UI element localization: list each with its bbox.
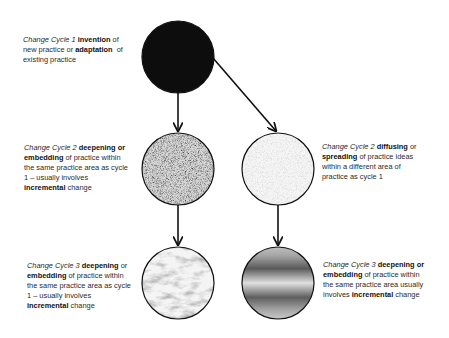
node-cycle1-circle bbox=[142, 21, 214, 93]
label-line: existing practice bbox=[23, 55, 138, 65]
label-line: incremental change bbox=[24, 183, 144, 193]
label-line: 1 – usually involves bbox=[24, 173, 144, 183]
label-line: embedding of practice within bbox=[27, 271, 147, 281]
label-line: involves incremental change bbox=[323, 290, 448, 300]
label-line: spreading of practice ideas bbox=[322, 152, 447, 162]
label-line: Change Cycle 2 deepening or bbox=[24, 143, 144, 153]
label-cycle3-left: Change Cycle 3 deepening orembedding of … bbox=[27, 261, 147, 311]
label-line: embedding of practice within bbox=[24, 153, 144, 163]
label-line: incremental change bbox=[27, 301, 147, 311]
label-line: Change Cycle 2 diffusing or bbox=[322, 142, 447, 152]
label-line: embedding of practice within bbox=[323, 270, 448, 280]
label-line: Change Cycle 1 invention of bbox=[23, 35, 138, 45]
arrow-cycle1-to-cycle2-diffusing bbox=[213, 58, 276, 131]
label-line: practice as cycle 1 bbox=[322, 172, 447, 182]
label-line: within a different area of bbox=[322, 162, 447, 172]
label-line: new practice or adaptation of bbox=[23, 45, 138, 55]
node-cycle3-right-circle bbox=[242, 247, 314, 319]
label-line: Change Cycle 3 deepening or bbox=[323, 260, 448, 270]
label-cycle2-deepening: Change Cycle 2 deepening orembedding of … bbox=[24, 143, 144, 193]
label-cycle2-diffusing: Change Cycle 2 diffusing orspreading of … bbox=[322, 142, 447, 182]
label-cycle3-right: Change Cycle 3 deepening orembedding of … bbox=[323, 260, 448, 300]
label-line: the same practice area usually bbox=[323, 280, 448, 290]
label-cycle1: Change Cycle 1 invention ofnew practice … bbox=[23, 35, 138, 65]
label-line: the same practice area as cycle bbox=[24, 163, 144, 173]
label-line: 1 – usually involves bbox=[27, 291, 147, 301]
label-line: Change Cycle 3 deepening or bbox=[27, 261, 147, 271]
label-line: the same practice area as cycle bbox=[27, 281, 147, 291]
